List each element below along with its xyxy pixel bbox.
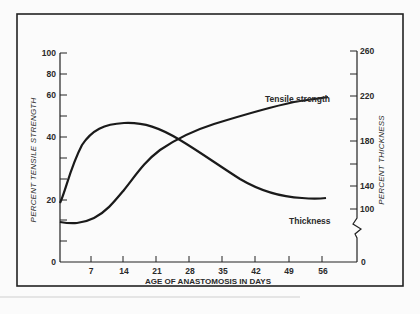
chart-frame [17, 14, 403, 286]
x-tick-7: 7 [89, 266, 94, 276]
y2-tick-140: 140 [360, 181, 374, 191]
y2-tick-180: 180 [360, 136, 374, 146]
chart-svg: 0 20 40 60 80 100 PERCENT TENSILE STRENG… [0, 0, 420, 314]
x-tick-42: 42 [251, 266, 261, 276]
thickness-line [60, 123, 326, 203]
y-tick-20: 20 [47, 195, 57, 205]
x-axis: 7 14 21 28 35 42 49 56 [60, 256, 357, 276]
y2-tick-0: 0 [361, 257, 366, 267]
y-tick-40: 40 [47, 132, 57, 142]
y-tick-100: 100 [42, 48, 56, 58]
y2-axis-title: PERCENT THICKNESS [377, 115, 386, 205]
y2-tick-220: 220 [360, 91, 374, 101]
x-tick-21: 21 [152, 266, 162, 276]
thickness-label: Thickness [289, 216, 331, 226]
x-tick-49: 49 [284, 266, 294, 276]
x-axis-title: AGE OF ANASTOMOSIS IN DAYS [145, 277, 272, 286]
x-tick-14: 14 [119, 266, 129, 276]
x-tick-56: 56 [318, 266, 328, 276]
y-axis-title: PERCENT TENSILE STRENGTH [29, 98, 38, 223]
x-tick-28: 28 [185, 266, 195, 276]
tensile-strength-label: Tensile strength [265, 94, 330, 104]
x-tick-35: 35 [218, 266, 228, 276]
right-y-axis: 260 220 180 140 100 0 [350, 46, 374, 267]
y-tick-80: 80 [47, 69, 57, 79]
y-tick-0: 0 [51, 257, 56, 267]
left-y-axis: 0 20 40 60 80 100 [42, 48, 67, 267]
y2-tick-100: 100 [360, 204, 374, 214]
y2-tick-260: 260 [360, 46, 374, 56]
y-tick-60: 60 [47, 90, 57, 100]
tensile-strength-line [60, 97, 328, 223]
